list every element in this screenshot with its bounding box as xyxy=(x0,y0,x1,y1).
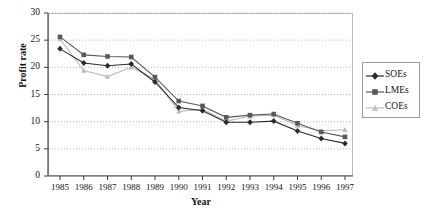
legend-item-coes: COEs xyxy=(365,98,417,114)
data-point xyxy=(295,121,300,126)
y-tick-label: 25 xyxy=(14,34,40,44)
series-lmes xyxy=(58,35,348,140)
legend-marker-triangle-icon xyxy=(365,100,385,112)
legend-label-soes: SOEs xyxy=(385,68,407,80)
series-coes xyxy=(57,36,347,133)
data-point xyxy=(343,135,348,140)
gridlines xyxy=(49,13,352,149)
x-axis-ticks xyxy=(60,176,345,180)
data-point xyxy=(271,112,276,117)
x-tick-label: 1997 xyxy=(330,182,360,192)
data-point xyxy=(105,63,111,69)
legend-label-coes: COEs xyxy=(385,100,408,112)
chart-legend: SOEs LMEs COEs xyxy=(362,62,420,118)
data-point xyxy=(318,136,324,142)
data-point xyxy=(200,108,206,114)
data-point xyxy=(58,35,63,40)
legend-item-lmes: LMEs xyxy=(365,82,417,98)
legend-item-soes: SOEs xyxy=(365,66,417,82)
data-point xyxy=(176,99,181,104)
data-point xyxy=(129,55,134,60)
series-soes xyxy=(57,46,348,147)
y-tick-label: 5 xyxy=(14,143,40,153)
y-tick-label: 20 xyxy=(14,61,40,71)
y-tick-label: 30 xyxy=(14,7,40,17)
data-point xyxy=(224,115,229,120)
data-point xyxy=(200,104,205,109)
data-point xyxy=(153,75,158,80)
y-tick-label: 10 xyxy=(14,116,40,126)
data-point xyxy=(81,53,86,58)
x-axis-title: Year xyxy=(48,196,354,207)
data-point xyxy=(81,60,87,66)
legend-label-lmes: LMEs xyxy=(385,84,409,96)
data-point xyxy=(319,130,324,135)
legend-marker-diamond-icon xyxy=(365,68,385,80)
data-point xyxy=(105,54,110,59)
chart-figure: Profit rate 051015202530 198519861987198… xyxy=(0,0,425,218)
data-point xyxy=(271,118,277,124)
data-point xyxy=(295,128,301,134)
data-point xyxy=(247,119,253,125)
data-point xyxy=(248,113,253,118)
y-tick-label: 0 xyxy=(14,170,40,180)
series-layer xyxy=(57,35,348,147)
y-tick-label: 15 xyxy=(14,89,40,99)
data-point xyxy=(57,46,63,52)
legend-marker-square-icon xyxy=(365,84,385,96)
data-point xyxy=(342,140,348,146)
